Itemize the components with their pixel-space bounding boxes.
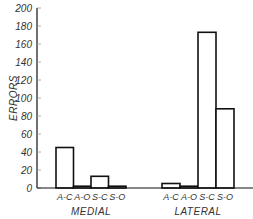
group-label-lateral: LATERAL [174,206,221,217]
bar-lateral-s-c [198,32,216,188]
category-label: A-O [73,192,90,202]
bars [56,32,234,188]
group-label-medial: MEDIAL [71,206,111,217]
category-labels: A-CA-OS-CS-OA-CA-OS-CS-O [56,192,233,202]
bar-medial-s-c [91,176,109,188]
category-label: S-C [92,192,108,202]
y-tick-label: 140 [15,57,32,68]
category-label: A-O [180,192,197,202]
y-tick-label: 200 [14,3,32,14]
y-axis-title: ERRORS [8,75,19,121]
y-tick-label: 20 [20,165,33,176]
group-labels: MEDIALLATERAL [71,206,222,217]
y-tick-label: 180 [15,21,32,32]
category-label: A-C [162,192,179,202]
y-tick-label: 60 [21,129,33,140]
y-tick-label: 80 [21,111,33,122]
category-label: S-O [217,192,233,202]
y-tick-label: 40 [21,147,33,158]
bar-lateral-a-c [162,184,180,189]
category-label: A-C [56,192,73,202]
category-label: S-O [109,192,125,202]
y-tick-label: 0 [26,183,32,194]
category-label: S-C [199,192,215,202]
bar-medial-a-c [56,148,74,189]
y-tick-label: 160 [15,39,32,50]
bar-lateral-s-o [216,109,234,188]
bar-chart: 020406080100120140160180200 ERRORS A-CA-… [0,0,253,219]
